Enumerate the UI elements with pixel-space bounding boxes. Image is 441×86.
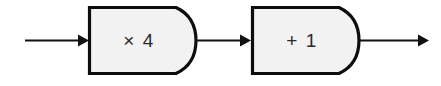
function-machine-diagram: × 4 + 1	[0, 0, 441, 86]
machine-label-add: + 1	[286, 30, 317, 51]
middle-arrow	[196, 35, 251, 47]
machine-label-multiply: × 4	[123, 30, 154, 51]
machine-multiply-by-four[interactable]: × 4	[90, 8, 197, 74]
input-arrow-head	[78, 35, 89, 47]
output-arrow-head	[418, 35, 429, 47]
input-arrow	[25, 35, 89, 47]
output-arrow	[359, 35, 429, 47]
diagram-canvas: × 4 + 1	[0, 0, 441, 86]
middle-arrow-head	[240, 35, 251, 47]
machine-add-one[interactable]: + 1	[253, 8, 360, 74]
